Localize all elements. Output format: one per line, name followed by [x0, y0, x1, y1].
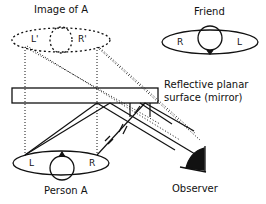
light-rays [25, 103, 200, 157]
person-left-label: L [29, 158, 34, 169]
observer-figure [180, 146, 206, 172]
friend-label: Friend [194, 6, 225, 17]
person-a-label: Person A [44, 185, 88, 196]
person-right-label: R [89, 158, 95, 169]
image-of-a-figure [12, 27, 110, 53]
mirror-surface [12, 88, 158, 103]
friend-right-label: L [237, 37, 242, 48]
image-right-label: R' [78, 34, 87, 45]
mirror-label-line2: surface (mirror) [164, 92, 243, 103]
image-of-a-label: Image of A [34, 4, 88, 15]
observer-label: Observer [172, 183, 218, 194]
friend-left-label: R [177, 37, 183, 48]
image-left-label: L' [31, 34, 39, 45]
mirror-label-line1: Reflective planar [164, 79, 248, 90]
